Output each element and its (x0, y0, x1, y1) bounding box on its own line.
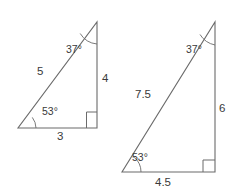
small-angle-arc-53 (32, 117, 36, 128)
similar-triangles-figure: 37° 53° 5 4 3 37° 53° 7.5 6 4.5 (0, 0, 242, 196)
large-triangle-vertical-leg-label: 6 (219, 103, 225, 115)
triangles-drawing (0, 0, 242, 196)
small-triangle-angle-37-label: 37° (66, 44, 82, 55)
small-triangle-angle-53-label: 53° (42, 106, 58, 117)
large-triangle-horizontal-leg-label: 4.5 (155, 177, 171, 189)
small-angle-arc-37 (80, 34, 97, 45)
large-triangle-angle-53-label: 53° (132, 152, 148, 163)
small-triangle-hypotenuse-label: 5 (37, 66, 43, 78)
small-triangle-vertical-leg-label: 4 (102, 73, 108, 85)
large-triangle-hypotenuse-label: 7.5 (135, 89, 151, 101)
large-triangle-angle-37-label: 37° (186, 44, 202, 55)
small-triangle-horizontal-leg-label: 3 (57, 131, 63, 143)
